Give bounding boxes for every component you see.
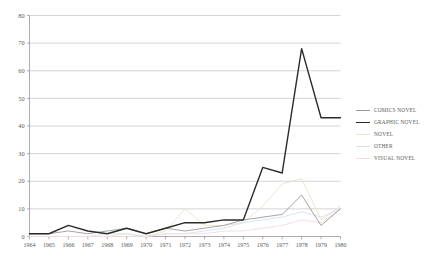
x-tick-labels: 1964196519661967196819691970197119721973… [24, 242, 347, 248]
legend-item[interactable]: NOVEL [356, 128, 427, 140]
legend-item-label: OTHER [374, 140, 393, 152]
legend-item-label: VISUAL NOVEL [374, 152, 415, 164]
legend-swatch-icon [356, 146, 370, 147]
legend-item[interactable]: COMICS NOVEL [356, 104, 427, 116]
x-tick-label: 1965 [43, 242, 55, 248]
x-tick-label: 1973 [198, 242, 210, 248]
series-line [30, 49, 341, 234]
y-tick-label: 30 [18, 150, 24, 157]
legend-swatch-icon [356, 122, 370, 123]
y-tick-label: 0 [21, 233, 24, 240]
chart-legend: COMICS NOVELGRAPHIC NOVELNOVELOTHERVISUA… [356, 104, 427, 164]
x-tick-label: 1978 [296, 242, 308, 248]
x-tick-label: 1977 [276, 242, 288, 248]
x-tick-label: 1968 [101, 242, 113, 248]
y-tick-label: 20 [18, 177, 24, 184]
x-tick-label: 1971 [160, 242, 172, 248]
legend-item[interactable]: OTHER [356, 140, 427, 152]
y-tick-label: 70 [18, 39, 24, 46]
x-tick-label: 1966 [62, 242, 74, 248]
legend-swatch-icon [356, 134, 370, 135]
data-series-group [30, 49, 341, 237]
x-tick-label: 1975 [237, 242, 249, 248]
x-tick-label: 1980 [335, 242, 347, 248]
legend-item-label: NOVEL [374, 128, 393, 140]
x-tick-label: 1972 [179, 242, 191, 248]
y-tick-label: 60 [18, 67, 24, 74]
y-tick-label: 10 [18, 205, 24, 212]
x-tick-label: 1964 [24, 242, 36, 248]
grid-lines [30, 16, 341, 209]
x-tick-label: 1970 [140, 242, 152, 248]
legend-swatch-icon [356, 110, 370, 111]
legend-item[interactable]: VISUAL NOVEL [356, 152, 427, 164]
x-tick-label: 1969 [121, 242, 133, 248]
legend-item-label: GRAPHIC NOVEL [374, 116, 420, 128]
y-tick-label: 50 [18, 95, 24, 102]
y-tick-label: 40 [18, 122, 24, 129]
y-tick-label: 80 [18, 12, 24, 19]
x-tick-label: 1967 [82, 242, 94, 248]
legend-swatch-icon [356, 158, 370, 159]
y-axis [27, 16, 30, 237]
legend-item-label: COMICS NOVEL [374, 104, 416, 116]
x-tick-label: 1974 [218, 242, 230, 248]
legend-item[interactable]: GRAPHIC NOVEL [356, 116, 427, 128]
x-tick-label: 1976 [257, 242, 269, 248]
x-tick-label: 1979 [315, 242, 327, 248]
y-tick-labels: 01020304050607080 [18, 12, 24, 240]
chart-container: 01020304050607080 1964196519661967196819… [0, 0, 427, 267]
